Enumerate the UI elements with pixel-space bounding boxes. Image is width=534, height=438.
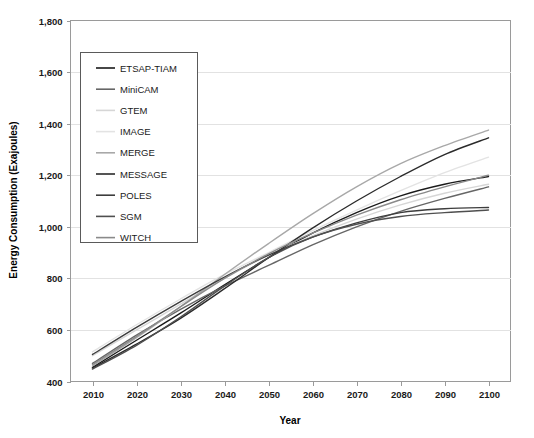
- x-tick-label: 2060: [303, 389, 324, 400]
- y-tick-label: 400: [47, 377, 63, 388]
- y-tick-label: 1,800: [39, 16, 63, 27]
- x-tick-label: 2030: [171, 389, 192, 400]
- x-tick-label: 2050: [259, 389, 280, 400]
- x-axis-title: Year: [279, 415, 300, 426]
- legend-label-merge: MERGE: [120, 147, 155, 158]
- y-tick-label: 600: [47, 325, 63, 336]
- chart-canvas: 4006008001,0001,2001,4001,6001,800 20102…: [0, 0, 534, 438]
- chart-legend: ETSAP-TIAMMiniCAMGTEMIMAGEMERGEMESSAGEPO…: [81, 53, 198, 244]
- x-tick-label: 2040: [215, 389, 236, 400]
- x-tick-label: 2100: [479, 389, 500, 400]
- legend-label-sgm: SGM: [120, 211, 142, 222]
- legend-label-gtem: GTEM: [120, 105, 148, 116]
- legend-label-message: MESSAGE: [120, 169, 167, 180]
- x-tick-label: 2070: [347, 389, 368, 400]
- legend-label-etsap-tiam: ETSAP-TIAM: [120, 63, 177, 74]
- legend-label-poles: POLES: [120, 190, 152, 201]
- legend-label-image: IMAGE: [120, 126, 151, 137]
- y-tick-label: 1,000: [39, 222, 63, 233]
- legend-label-witch: WITCH: [120, 232, 151, 243]
- y-tick-label: 1,200: [39, 170, 63, 181]
- y-tick-label: 1,600: [39, 67, 63, 78]
- y-axis-title: Energy Consumption (Exajoules): [8, 121, 19, 278]
- energy-consumption-line-chart: 4006008001,0001,2001,4001,6001,800 20102…: [0, 0, 534, 438]
- y-tick-label: 800: [47, 273, 63, 284]
- x-tick-label: 2010: [83, 389, 104, 400]
- legend-label-minicam: MiniCAM: [120, 84, 159, 95]
- x-tick-label: 2090: [435, 389, 456, 400]
- x-tick-label: 2080: [391, 389, 412, 400]
- y-tick-label: 1,400: [39, 119, 63, 130]
- x-tick-label: 2020: [127, 389, 148, 400]
